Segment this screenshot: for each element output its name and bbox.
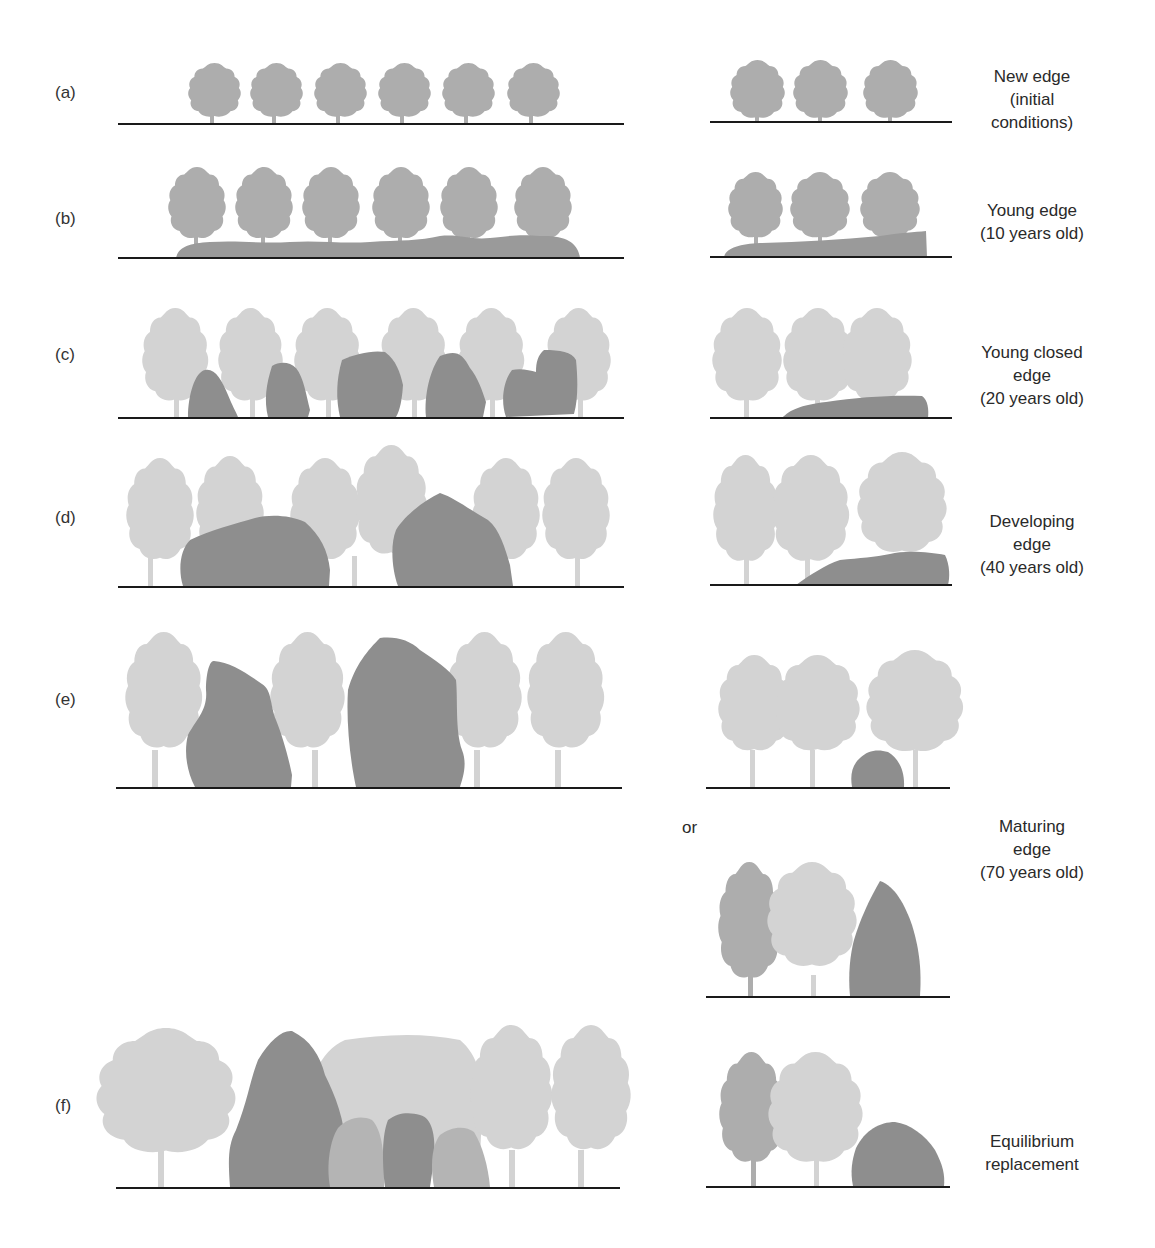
tree-icon (790, 172, 850, 246)
shrub-icon (383, 1113, 434, 1187)
shrub-icon (851, 750, 904, 787)
tree-icon (768, 1052, 862, 1186)
tree-icon (712, 308, 781, 417)
tree-icon (728, 172, 783, 246)
tree-icon (235, 167, 293, 250)
stage-label-equilibrium-replacement: Equilibrium replacement (947, 1130, 1117, 1176)
stage-label-line: Maturing (947, 815, 1117, 838)
stage-label-maturing-edge: Maturing edge (70 years old) (947, 815, 1117, 884)
stage-label-young-closed-edge: Young closed edge (20 years old) (947, 341, 1117, 410)
tree-icon (767, 862, 856, 996)
or-label: or (682, 818, 697, 838)
shrub-icon (852, 1122, 945, 1186)
row-label-d: (d) (55, 508, 76, 528)
tree-icon (442, 63, 495, 124)
stage-label-line: conditions) (947, 111, 1117, 134)
tree-icon (97, 1028, 236, 1187)
row-label-f: (f) (55, 1096, 71, 1116)
shrub-icon (432, 1128, 490, 1187)
stage-label-line: (70 years old) (947, 861, 1117, 884)
row-f-right (706, 1052, 950, 1187)
tree-icon (168, 167, 226, 250)
stage-label-young-edge: Young edge (10 years old) (947, 199, 1117, 245)
stage-label-developing-edge: Developing edge (40 years old) (947, 510, 1117, 579)
row-f-left (97, 1025, 631, 1188)
row-c-right (710, 308, 952, 418)
shrub-icon (337, 351, 403, 417)
row-a-left (118, 63, 624, 124)
row-d-right (710, 452, 952, 585)
shrub-icon (849, 881, 920, 996)
row-a-right (710, 60, 952, 122)
shrub-layer (176, 235, 580, 258)
stage-label-line: Young closed (947, 341, 1117, 364)
row-label-a: (a) (55, 83, 76, 103)
stage-label-line: (10 years old) (947, 222, 1117, 245)
tree-icon (372, 167, 430, 250)
tree-icon (302, 167, 360, 250)
row-label-e: (e) (55, 690, 76, 710)
tree-icon (250, 63, 303, 124)
stage-label-new-edge: New edge (initial conditions) (947, 65, 1117, 134)
tree-icon (542, 458, 609, 586)
stage-label-line: New edge (947, 65, 1117, 88)
tree-icon (718, 655, 790, 787)
stage-label-line: edge (947, 364, 1117, 387)
shrub-icon (347, 638, 464, 788)
tree-icon (314, 63, 367, 124)
tree-icon (527, 632, 604, 787)
stage-label-line: Developing (947, 510, 1117, 533)
stage-label-line: Equilibrium (947, 1130, 1117, 1153)
row-e-right (706, 650, 963, 788)
forest-edge-diagram (0, 0, 1155, 1248)
tree-icon (730, 60, 785, 122)
row-c-left (118, 308, 624, 418)
row-d-left (118, 445, 624, 587)
tree-icon (188, 63, 241, 124)
row-b-right (710, 172, 952, 257)
tree-icon (793, 60, 848, 122)
stage-label-line: edge (947, 838, 1117, 861)
tree-icon (863, 60, 918, 122)
stage-label-line: replacement (947, 1153, 1117, 1176)
tree-icon (857, 452, 946, 552)
stage-label-line: Young edge (947, 199, 1117, 222)
stage-label-line: edge (947, 533, 1117, 556)
row-e-alt-right (706, 862, 950, 997)
row-b-left (118, 167, 624, 258)
stage-label-line: (40 years old) (947, 556, 1117, 579)
shrub-layer (782, 396, 928, 418)
tree-icon (713, 455, 778, 585)
row-label-c: (c) (55, 345, 75, 365)
tree-icon (378, 63, 431, 124)
tree-icon (775, 655, 859, 787)
stage-label-line: (20 years old) (947, 387, 1117, 410)
tree-icon (507, 63, 560, 124)
row-e-left (116, 632, 622, 788)
tree-icon (551, 1025, 630, 1187)
row-label-b: (b) (55, 209, 76, 229)
stage-label-line: (initial (947, 88, 1117, 111)
